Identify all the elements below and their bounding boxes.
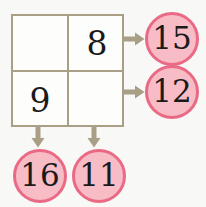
grid-cell-r0c1[interactable]: 8 (70, 16, 124, 70)
arrow-down-icon (31, 126, 45, 148)
row-sum-circle-0[interactable]: 15 (145, 12, 199, 66)
grid-cell-value: 8 (87, 27, 108, 60)
arrow-down-icon (87, 126, 101, 148)
arrow-right-icon (123, 32, 145, 46)
grid-cell-r1c1[interactable] (70, 73, 124, 127)
column-sum-value: 16 (20, 160, 59, 191)
row-sum-value: 15 (152, 23, 191, 54)
column-sum-circle-1[interactable]: 11 (72, 149, 126, 203)
grid-horizontal-divider (13, 70, 122, 72)
row-sum-circle-1[interactable]: 12 (145, 65, 199, 119)
grid-cell-value: 9 (30, 84, 51, 117)
number-grid: 8 9 (11, 14, 124, 127)
row-sum-value: 12 (152, 76, 191, 107)
column-sum-value: 11 (79, 160, 118, 191)
column-sum-circle-0[interactable]: 16 (13, 149, 67, 203)
grid-cell-r1c0[interactable]: 9 (13, 73, 67, 127)
grid-cell-r0c0[interactable] (13, 16, 67, 70)
arrow-right-icon (123, 85, 145, 99)
puzzle-canvas: 8 9 15 12 16 1 (0, 0, 206, 207)
